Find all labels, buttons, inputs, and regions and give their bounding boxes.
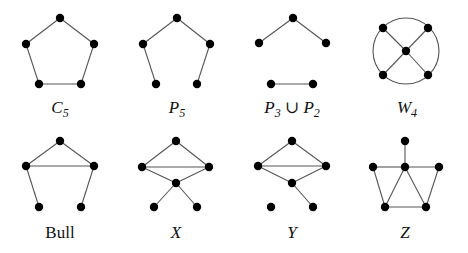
graph-label: Bull — [45, 223, 75, 242]
graph-edge — [258, 166, 292, 183]
graph-vertex — [401, 137, 409, 145]
graph-vertex — [56, 14, 64, 22]
graph-edge — [60, 18, 94, 44]
graph-c5: C5 — [22, 14, 98, 120]
graph-x: X — [138, 137, 213, 242]
graph-edge — [142, 141, 176, 167]
graph-w4: W4 — [373, 18, 439, 120]
graph-edge — [26, 166, 39, 207]
graph-p3-union-p2: P3 ∪ P2 — [255, 14, 330, 120]
graph-vertex — [288, 137, 296, 145]
graph-vertex — [90, 162, 98, 170]
graph-vertex — [322, 39, 330, 47]
graph-edge — [197, 44, 210, 84]
graph-vertex — [422, 203, 430, 211]
graph-vertex — [152, 80, 160, 88]
graph-edge — [176, 167, 209, 183]
graph-vertex — [369, 163, 377, 171]
graph-vertex — [22, 162, 30, 170]
graph-vertex — [379, 71, 387, 79]
graph-vertex — [309, 80, 317, 88]
graph-vertex — [205, 163, 213, 171]
graph-edge — [293, 18, 326, 43]
graph-edge — [143, 44, 156, 84]
graph-figure: C5 P5 P3 ∪ P2 W4 Bull X Y Z — [0, 0, 468, 253]
graph-edge — [405, 167, 426, 207]
graph-vertex — [172, 137, 180, 145]
graph-vertex — [267, 80, 275, 88]
graph-vertex — [401, 163, 409, 171]
graph-edge — [26, 141, 60, 166]
graph-edge — [142, 167, 176, 183]
graph-label: Z — [400, 223, 410, 242]
graph-z: Z — [369, 137, 443, 242]
graph-edge — [176, 141, 209, 167]
graph-vertex — [56, 137, 64, 145]
graph-vertex — [402, 47, 410, 55]
graph-vertex — [267, 203, 275, 211]
graph-edge — [176, 183, 197, 207]
graph-edge — [406, 28, 428, 51]
graph-vertex — [90, 40, 98, 48]
graph-vertex — [379, 24, 387, 32]
graph-vertex — [35, 80, 43, 88]
graph-edge — [259, 18, 293, 43]
graph-edge — [26, 44, 39, 84]
graph-label: W4 — [397, 98, 417, 120]
graph-vertex — [381, 203, 389, 211]
graph-vertex — [139, 40, 147, 48]
graph-edge — [383, 28, 406, 51]
graph-vertex — [289, 14, 297, 22]
graph-vertex — [173, 14, 181, 22]
graph-edge — [258, 141, 292, 166]
graph-p5: P5 — [139, 14, 214, 120]
graph-edge — [292, 141, 326, 166]
graph-vertex — [35, 203, 43, 211]
graph-vertex — [193, 80, 201, 88]
graph-edge — [81, 44, 94, 84]
graph-label: P5 — [168, 98, 185, 120]
graph-edge — [292, 183, 313, 207]
graph-edge — [154, 183, 176, 207]
graph-edge — [385, 167, 405, 207]
graph-edge — [406, 51, 428, 75]
graph-edge — [60, 141, 94, 166]
graph-vertex — [138, 163, 146, 171]
graph-edge — [383, 51, 406, 75]
graph-y: Y — [254, 137, 330, 242]
graph-edge — [373, 167, 385, 207]
graph-edge — [26, 18, 60, 44]
graph-edge — [143, 18, 177, 44]
graph-bull: Bull — [22, 137, 98, 242]
graph-edge — [177, 18, 210, 44]
graph-vertex — [254, 162, 262, 170]
graph-vertex — [77, 80, 85, 88]
graph-vertex — [77, 203, 85, 211]
graph-vertex — [193, 203, 201, 211]
graph-edge — [292, 166, 326, 183]
graph-label: P3 ∪ P2 — [263, 98, 320, 120]
graph-vertex — [22, 40, 30, 48]
graph-vertex — [435, 163, 443, 171]
graph-label: C5 — [51, 98, 68, 120]
graph-vertex — [424, 71, 432, 79]
graph-vertex — [172, 179, 180, 187]
graph-edge — [81, 166, 94, 207]
graph-edge — [426, 167, 439, 207]
graph-vertex — [424, 24, 432, 32]
graph-vertex — [150, 203, 158, 211]
graph-vertex — [206, 40, 214, 48]
graph-vertex — [322, 162, 330, 170]
graph-vertex — [288, 179, 296, 187]
graph-vertex — [309, 203, 317, 211]
graph-vertex — [255, 39, 263, 47]
graph-label: X — [170, 223, 182, 242]
graph-label: Y — [287, 223, 298, 242]
